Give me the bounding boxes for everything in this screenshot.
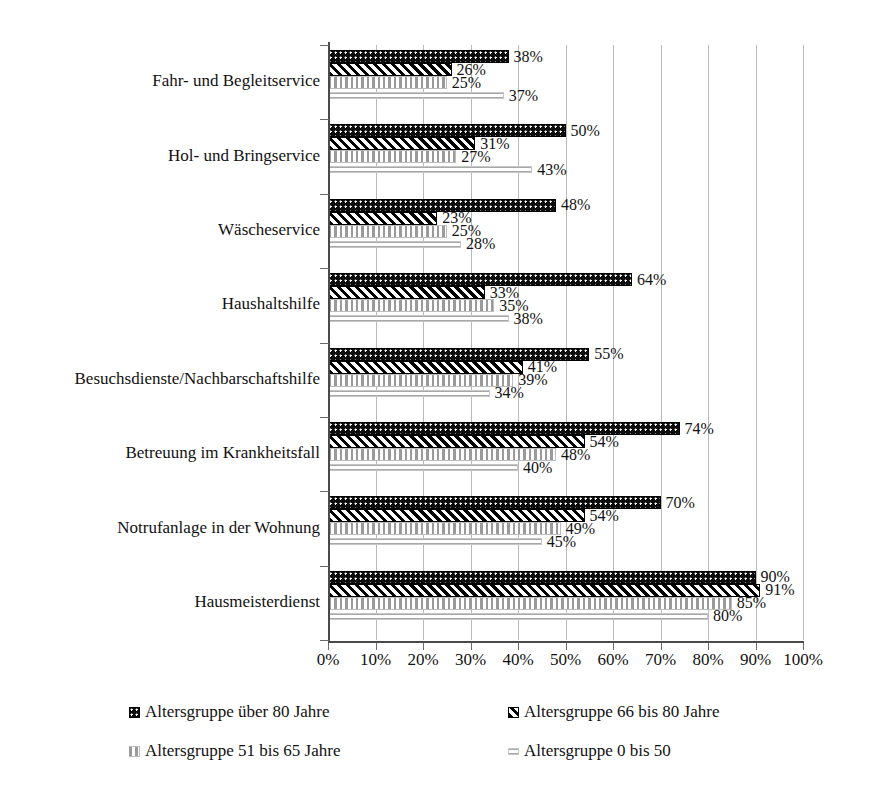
bar-value-label: 48%: [561, 197, 590, 213]
bar: [328, 464, 518, 471]
bar: [328, 374, 513, 387]
bar: [328, 538, 542, 545]
bar-value-label: 40%: [523, 460, 552, 476]
legend-swatch-icon: [129, 746, 140, 757]
legend-swatch-icon: [508, 748, 519, 755]
category-label: Notrufanlage in der Wohnung: [8, 518, 328, 537]
bar-value-label: 28%: [466, 236, 495, 252]
bar: [328, 63, 452, 76]
legend-label: Altersgruppe über 80 Jahre: [145, 702, 330, 722]
bar-value-label: 48%: [561, 447, 590, 463]
category-label: Betreuung im Krankheitsfall: [8, 443, 328, 462]
bar-value-label: 25%: [452, 75, 481, 91]
bar-value-label: 80%: [713, 608, 742, 624]
gridline: [613, 45, 614, 640]
bar: [328, 241, 461, 248]
category-label: Hausmeisterdienst: [8, 592, 328, 611]
bar-value-label: 64%: [637, 272, 666, 288]
category-label: Besuchsdienste/Nachbarschaftshilfe: [8, 369, 328, 388]
bar: [328, 76, 447, 89]
legend-swatch-icon: [129, 707, 140, 718]
x-axis-tick-label: 60%: [597, 650, 628, 670]
x-axis-tick-label: 40%: [502, 650, 533, 670]
bar-chart: 38%26%25%37%50%31%27%43%48%23%25%28%64%3…: [0, 0, 871, 810]
bar-value-label: 50%: [571, 123, 600, 139]
bar: [328, 225, 447, 238]
bar: [328, 435, 585, 448]
bar: [328, 137, 475, 150]
x-axis-tick: [518, 643, 519, 650]
bar: [328, 124, 566, 137]
bar-value-label: 70%: [666, 495, 695, 511]
x-axis-tick-label: 30%: [455, 650, 486, 670]
bar: [328, 584, 760, 597]
x-axis-tick-label: 0%: [317, 650, 340, 670]
legend-label: Altersgruppe 0 bis 50: [524, 741, 671, 761]
bar: [328, 299, 494, 312]
gridline: [566, 45, 567, 640]
x-axis-tick-label: 10%: [360, 650, 391, 670]
chart-legend: Altersgruppe über 80 JahreAltersgruppe 6…: [0, 694, 871, 784]
bar: [328, 315, 509, 322]
x-axis-tick-label: 70%: [645, 650, 676, 670]
bar-value-label: 91%: [765, 582, 794, 598]
x-axis-tick: [708, 643, 709, 650]
x-axis-tick-labels: 0%10%20%30%40%50%60%70%80%90%100%: [0, 650, 871, 676]
category-labels: Fahr- und BegleitserviceHol- und Bringse…: [0, 0, 328, 700]
bar-value-label: 38%: [514, 49, 543, 65]
bar-value-label: 54%: [590, 434, 619, 450]
legend-item[interactable]: Altersgruppe über 80 Jahre: [129, 702, 330, 722]
bar: [328, 273, 632, 286]
gridline: [708, 45, 709, 640]
x-axis-tick: [566, 643, 567, 650]
x-axis-tick: [613, 643, 614, 650]
bar: [328, 522, 561, 535]
x-axis-tick-label: 50%: [550, 650, 581, 670]
bar: [328, 448, 556, 461]
x-axis-tick: [423, 643, 424, 650]
x-axis-tick: [756, 643, 757, 650]
bar-value-label: 38%: [514, 311, 543, 327]
x-axis-tick: [471, 643, 472, 650]
x-axis-tick: [661, 643, 662, 650]
plot-area: 38%26%25%37%50%31%27%43%48%23%25%28%64%3…: [328, 45, 803, 640]
gridline: [803, 45, 804, 640]
bar: [328, 571, 756, 584]
legend-label: Altersgruppe 66 bis 80 Jahre: [524, 702, 719, 722]
category-label: Hol- und Bringservice: [8, 146, 328, 165]
bar: [328, 597, 732, 610]
bar: [328, 390, 490, 397]
x-axis-tick-label: 20%: [407, 650, 438, 670]
bar-value-label: 37%: [509, 88, 538, 104]
bar-value-label: 27%: [461, 149, 490, 165]
legend-swatch-icon: [508, 707, 519, 718]
x-axis-tick-label: 100%: [783, 650, 823, 670]
category-label: Haushaltshilfe: [8, 294, 328, 313]
bar: [328, 92, 504, 99]
bar: [328, 613, 708, 620]
bar-value-label: 74%: [685, 421, 714, 437]
x-axis-tick-label: 80%: [692, 650, 723, 670]
bar: [328, 422, 680, 435]
bar: [328, 166, 532, 173]
legend-item[interactable]: Altersgruppe 0 bis 50: [508, 741, 671, 761]
category-label: Fahr- und Begleitservice: [8, 71, 328, 90]
gridline: [756, 45, 757, 640]
bar-value-label: 43%: [537, 162, 566, 178]
category-label: Wäscheservice: [8, 220, 328, 239]
x-axis-tick: [328, 643, 329, 650]
bar-value-label: 34%: [495, 385, 524, 401]
x-axis-tick: [803, 643, 804, 650]
x-axis-tick: [376, 643, 377, 650]
bar: [328, 509, 585, 522]
legend-item[interactable]: Altersgruppe 66 bis 80 Jahre: [508, 702, 719, 722]
bar-value-label: 45%: [547, 534, 576, 550]
legend-label: Altersgruppe 51 bis 65 Jahre: [145, 741, 340, 761]
bar: [328, 361, 523, 374]
bar: [328, 212, 437, 225]
gridline: [661, 45, 662, 640]
bar-value-label: 55%: [594, 346, 623, 362]
x-axis-tick-label: 90%: [740, 650, 771, 670]
bar: [328, 286, 485, 299]
legend-item[interactable]: Altersgruppe 51 bis 65 Jahre: [129, 741, 340, 761]
